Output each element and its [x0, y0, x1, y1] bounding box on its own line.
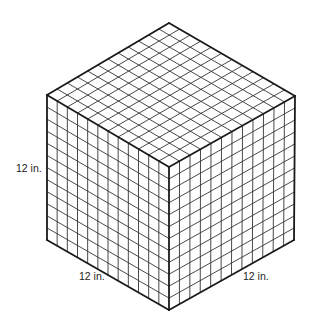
width-label: 12 in. [243, 270, 269, 282]
cube-edge [294, 96, 295, 240]
height-label: 12 in. [16, 162, 42, 174]
depth-label: 12 in. [79, 270, 105, 282]
right-face-grid-line [242, 126, 243, 270]
